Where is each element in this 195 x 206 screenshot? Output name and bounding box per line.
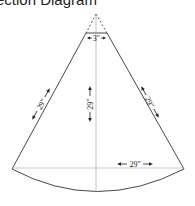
section-diagram: 3" 29" 29" 29" 29"	[0, 0, 195, 206]
apex-dashed-lines	[86, 14, 107, 33]
left-edge	[12, 33, 86, 169]
right-side-dimension: 29"	[137, 84, 162, 120]
top-width-dimension: 3"	[87, 34, 106, 43]
left-side-label: 29"	[35, 97, 48, 111]
left-side-dimension: 29"	[29, 86, 54, 122]
bottom-radius-label: 29"	[129, 160, 140, 169]
center-height-dimension: 29"	[86, 86, 95, 122]
center-height-label: 29"	[86, 98, 95, 109]
bottom-arc	[12, 169, 184, 192]
right-side-label: 29"	[143, 95, 156, 109]
bottom-radius-dimension: 29"	[117, 160, 153, 169]
top-width-label: 3"	[93, 34, 100, 43]
